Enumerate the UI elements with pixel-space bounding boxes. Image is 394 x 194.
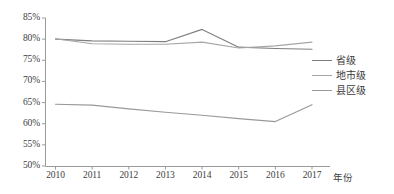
legend-item-provincial[interactable]: 省级 (312, 54, 366, 67)
line-chart: 50%55%60%65%70%75%80%85% 201020112012201… (0, 0, 394, 194)
x-axis-tick-label: 2016 (255, 170, 295, 180)
chart-plot-area (0, 0, 394, 194)
y-axis-tick-label: 75% (2, 54, 40, 64)
x-axis-tick-label: 2010 (36, 170, 76, 180)
y-axis-tick-label: 60% (2, 118, 40, 128)
y-axis-tick-label: 80% (2, 33, 40, 43)
x-axis-title: 年份 (333, 170, 353, 184)
x-axis-tick-label: 2015 (219, 170, 259, 180)
y-axis-tick-label: 65% (2, 97, 40, 107)
x-axis-tick-label: 2011 (72, 170, 112, 180)
x-axis-tick-label: 2017 (292, 170, 332, 180)
legend-label-provincial: 省级 (336, 54, 356, 67)
x-axis-tick-label: 2013 (145, 170, 185, 180)
legend-item-county[interactable]: 县区级 (312, 84, 366, 97)
y-axis-tick-label: 85% (2, 12, 40, 22)
series-line (56, 104, 313, 121)
legend-swatch-provincial (312, 60, 332, 61)
legend-swatch-county (312, 90, 332, 91)
data-series-layer (56, 29, 313, 121)
x-axis-tick-label: 2014 (182, 170, 222, 180)
x-axis-tick-label: 2012 (109, 170, 149, 180)
y-axis-tick-label: 55% (2, 139, 40, 149)
legend-label-county: 县区级 (336, 84, 366, 97)
series-line (56, 39, 313, 48)
y-axis-ticks (42, 18, 46, 166)
legend-label-prefecture: 地市级 (336, 69, 366, 82)
chart-legend: 省级 地市级 县区级 (312, 54, 366, 97)
legend-swatch-prefecture (312, 75, 332, 76)
y-axis-tick-label: 70% (2, 75, 40, 85)
y-axis-tick-label: 50% (2, 160, 40, 170)
legend-item-prefecture[interactable]: 地市级 (312, 69, 366, 82)
